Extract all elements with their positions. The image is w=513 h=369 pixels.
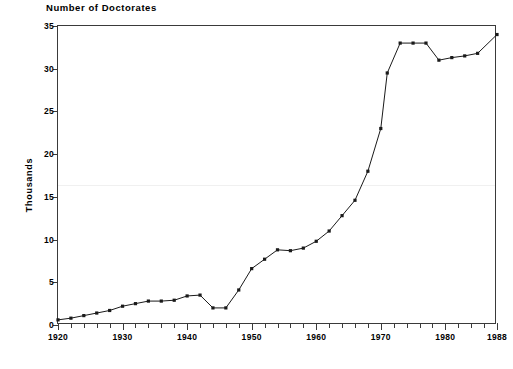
y-axis-title: Thousands [24,157,34,211]
x-axis-minor-tick [226,323,227,328]
data-point-marker [379,127,382,130]
x-axis-minor-tick [148,323,149,328]
y-axis-tick-label: 25 [44,107,54,116]
x-axis-tick-label: 1970 [371,332,391,342]
data-point-marker [424,41,427,44]
x-axis-minor-tick [135,323,136,328]
x-axis-tick-label: 1960 [306,332,326,342]
x-axis-major-tick [252,323,253,330]
x-axis-minor-tick [432,323,433,328]
data-point-marker [95,311,98,314]
x-axis-tick-label: 1940 [177,332,197,342]
data-point-marker [463,54,466,57]
x-axis-minor-tick [342,323,343,328]
x-axis-minor-tick [161,323,162,328]
x-axis-minor-tick [484,323,485,328]
data-point-marker [186,294,189,297]
data-point-marker [134,302,137,305]
data-point-marker [411,41,414,44]
x-axis-minor-tick [407,323,408,328]
y-axis-tick-label: 0 [49,321,54,330]
x-axis-minor-tick [84,323,85,328]
y-axis-tick-label: 15 [44,192,54,201]
x-axis-minor-tick [97,323,98,328]
x-axis-minor-tick [71,323,72,328]
x-axis-major-tick [123,323,124,330]
x-axis-minor-tick [420,323,421,328]
y-axis-tick-label: 20 [44,150,54,159]
x-axis-minor-tick [355,323,356,328]
data-point-marker [121,305,124,308]
data-point-marker [147,299,150,302]
y-axis-tick-label: 10 [44,235,54,244]
x-axis-major-tick [58,323,59,330]
data-point-marker [211,306,214,309]
data-point-marker [399,41,402,44]
plot-area: 0510152025303519201930194019501960197019… [57,25,496,324]
data-point-marker [263,258,266,261]
x-axis-minor-tick [471,323,472,328]
y-axis-tick-label: 35 [44,22,54,31]
x-axis-minor-tick [239,323,240,328]
x-axis-major-tick [316,323,317,330]
x-axis-minor-tick [213,323,214,328]
x-axis-major-tick [381,323,382,330]
data-point-marker [315,240,318,243]
x-axis-minor-tick [368,323,369,328]
chart-figure: Number of Doctorates 0510152025303519201… [0,0,513,369]
data-point-marker [250,267,253,270]
data-point-marker [289,249,292,252]
data-point-marker [69,317,72,320]
series-plot [58,26,497,325]
x-axis-tick-label: 1980 [435,332,455,342]
x-axis-minor-tick [303,323,304,328]
data-point-marker [450,56,453,59]
data-point-marker [276,248,279,251]
data-point-marker [108,309,111,312]
x-axis-minor-tick [174,323,175,328]
data-point-marker [56,318,59,321]
data-point-marker [495,33,498,36]
x-axis-minor-tick [200,323,201,328]
data-point-marker [340,214,343,217]
data-point-marker [353,199,356,202]
x-axis-tick-label: 1950 [242,332,262,342]
x-axis-minor-tick [394,323,395,328]
data-point-marker [237,288,240,291]
data-point-marker [366,170,369,173]
y-axis-tick-label: 5 [49,278,54,287]
data-point-marker [224,306,227,309]
data-point-marker [302,247,305,250]
y-axis-tick-label: 30 [44,64,54,73]
series-line [58,35,497,320]
chart-title: Number of Doctorates [46,2,157,14]
x-axis-minor-tick [290,323,291,328]
x-axis-minor-tick [329,323,330,328]
x-axis-minor-tick [265,323,266,328]
x-axis-tick-label: 1930 [112,332,132,342]
x-axis-minor-tick [458,323,459,328]
data-point-marker [437,59,440,62]
x-axis-major-tick [497,323,498,330]
data-point-marker [198,294,201,297]
x-axis-tick-label: 1920 [48,332,68,342]
x-axis-tick-label: 1988 [487,332,507,342]
data-point-marker [160,299,163,302]
x-axis-major-tick [187,323,188,330]
x-axis-major-tick [445,323,446,330]
data-point-marker [476,52,479,55]
x-axis-minor-tick [278,323,279,328]
data-point-marker [82,314,85,317]
x-axis-minor-tick [110,323,111,328]
data-point-marker [328,229,331,232]
data-point-marker [386,71,389,74]
data-point-marker [173,299,176,302]
